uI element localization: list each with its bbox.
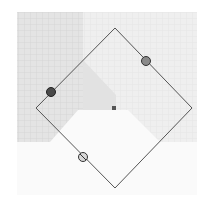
transform-overlay (0, 0, 210, 206)
rotate-handle[interactable] (47, 88, 56, 97)
center-point-icon[interactable] (112, 106, 116, 110)
skew-handle[interactable] (79, 153, 88, 162)
image-canvas[interactable] (0, 0, 210, 206)
scale-handle[interactable] (142, 57, 151, 66)
